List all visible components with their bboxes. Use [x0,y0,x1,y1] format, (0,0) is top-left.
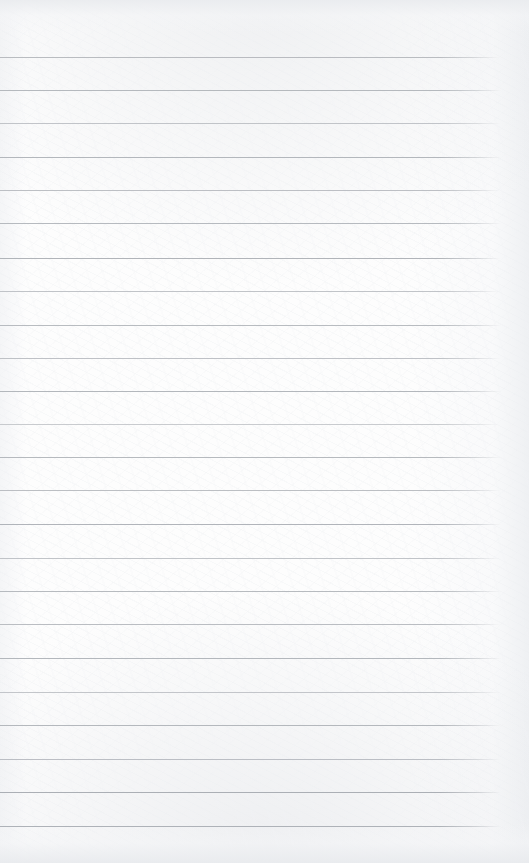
ruled-line [0,258,500,259]
ruled-line [0,123,500,124]
ruled-line [0,558,500,559]
ruled-line [0,658,501,659]
ruled-line [0,90,501,91]
ruled-line [0,792,501,793]
ruled-line [0,826,501,827]
ruled-line [0,57,499,58]
ruled-line [0,157,501,158]
ruled-line [0,692,500,693]
ruled-line [0,391,501,392]
ruled-line [0,457,501,458]
ruled-line [0,424,499,425]
ruled-line [0,190,500,191]
ruled-line [0,490,500,491]
ruled-line [0,524,501,525]
ruled-line [0,223,501,224]
ruled-line [0,624,500,625]
ruled-line [0,725,501,726]
ruled-line [0,358,500,359]
ruled-line [0,591,501,592]
ruled-line [0,291,499,292]
ruled-line-layer [0,0,529,863]
ruled-line [0,325,501,326]
scanned-page [0,0,529,863]
ruled-line [0,759,500,760]
